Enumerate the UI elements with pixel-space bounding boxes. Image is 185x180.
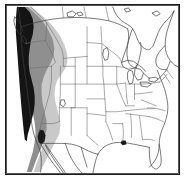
map-canvas: [6, 5, 179, 174]
distribution-map-figure: Western North America distribution map N…: [0, 0, 185, 180]
map-frame: Western North America distribution map N…: [5, 4, 180, 175]
